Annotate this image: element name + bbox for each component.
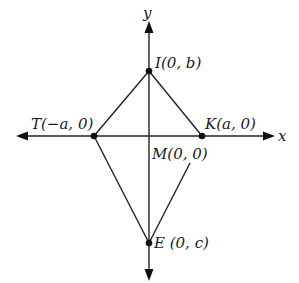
segment-IK xyxy=(149,71,202,136)
point-labels: I(0, b) T(−a, 0) K(a, 0) M(0, 0) E (0, c… xyxy=(31,54,256,252)
label-M: M(0, 0) xyxy=(151,145,208,163)
point-K xyxy=(199,133,206,140)
label-I: I(0, b) xyxy=(154,54,201,72)
x-axis-right-arrow-icon xyxy=(263,132,275,141)
segment-TI xyxy=(94,71,149,136)
x-axis-left-arrow-icon xyxy=(16,132,28,141)
point-E xyxy=(146,240,153,247)
segment-TE xyxy=(94,136,149,243)
point-T xyxy=(91,133,98,140)
y-axis-down-arrow-icon xyxy=(145,269,154,281)
label-T: T(−a, 0) xyxy=(31,115,93,133)
point-I xyxy=(146,68,153,75)
diagram-svg: x y I(0, b) T(−a, 0) K(a, 0) xyxy=(0,0,299,283)
segment-EK-partial xyxy=(149,163,190,243)
label-K: K(a, 0) xyxy=(204,115,256,133)
y-axis-up-arrow-icon xyxy=(145,21,154,33)
kite-diagram: x y I(0, b) T(−a, 0) K(a, 0) xyxy=(0,0,299,283)
y-axis-label: y xyxy=(142,4,152,22)
x-axis-label: x xyxy=(278,127,287,145)
label-E: E (0, c) xyxy=(153,234,209,252)
